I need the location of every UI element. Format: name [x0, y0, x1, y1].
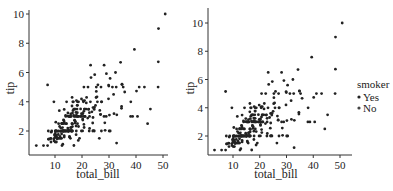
data-point — [249, 130, 252, 133]
data-point — [77, 139, 80, 142]
data-point — [62, 130, 65, 133]
data-point — [290, 118, 293, 121]
data-point — [107, 97, 110, 100]
data-point — [272, 110, 275, 113]
data-point — [292, 92, 295, 95]
data-point — [94, 104, 97, 107]
data-point — [95, 86, 98, 89]
data-point — [119, 61, 122, 64]
data-point — [267, 83, 270, 86]
data-point — [274, 90, 277, 93]
data-point — [250, 149, 253, 152]
data-point — [80, 98, 83, 101]
data-point — [224, 90, 227, 93]
data-point — [66, 130, 69, 133]
data-point — [73, 144, 76, 147]
data-point — [269, 122, 272, 125]
data-point — [285, 90, 288, 93]
data-point — [149, 108, 152, 111]
data-point — [278, 135, 281, 138]
data-point — [244, 132, 247, 135]
data-point — [103, 115, 106, 118]
data-point — [75, 133, 78, 136]
data-point — [240, 127, 243, 130]
data-point — [63, 108, 66, 111]
data-point — [83, 123, 86, 126]
data-point — [228, 136, 231, 139]
data-point — [266, 135, 269, 138]
data-point — [257, 113, 260, 116]
data-point — [123, 91, 126, 94]
data-point — [164, 13, 167, 16]
y-ticks-right: 246810 — [192, 17, 208, 142]
data-point — [271, 80, 274, 83]
data-point — [71, 112, 74, 115]
data-point — [298, 90, 301, 93]
data-point — [272, 102, 275, 105]
data-point — [274, 106, 277, 109]
data-point — [75, 130, 78, 133]
data-point — [297, 68, 300, 71]
data-point — [334, 92, 337, 95]
data-point — [232, 145, 235, 148]
data-point — [315, 92, 318, 95]
data-point — [88, 130, 91, 133]
data-point — [89, 64, 92, 67]
data-point — [133, 48, 136, 51]
x-tick-label: 40 — [131, 159, 143, 171]
data-point — [108, 114, 111, 117]
data-point — [293, 119, 296, 122]
data-point — [71, 96, 74, 99]
data-point — [91, 110, 94, 113]
data-points-right — [213, 22, 344, 152]
data-point — [103, 121, 106, 124]
data-point — [157, 60, 160, 63]
data-point — [246, 134, 249, 137]
data-point — [244, 135, 247, 138]
data-point — [301, 97, 304, 100]
data-point — [67, 112, 70, 115]
data-point — [66, 127, 69, 130]
data-point — [53, 100, 56, 103]
data-point — [89, 100, 92, 103]
data-point — [263, 102, 266, 105]
data-point — [224, 149, 227, 152]
data-point — [35, 144, 38, 147]
data-point — [63, 136, 66, 139]
data-point — [42, 144, 45, 147]
data-point — [241, 141, 244, 144]
data-point — [238, 137, 241, 140]
legend: smoker Yes No — [357, 78, 390, 114]
data-point — [246, 121, 249, 124]
data-point — [85, 96, 88, 99]
data-point — [281, 134, 284, 137]
data-point — [264, 122, 267, 125]
data-point — [111, 86, 114, 89]
data-point — [115, 142, 118, 145]
data-point — [289, 92, 292, 95]
data-point — [255, 106, 258, 109]
data-point — [264, 92, 267, 95]
data-point — [157, 86, 160, 89]
data-point — [129, 100, 132, 103]
data-point — [105, 72, 108, 75]
data-point — [265, 114, 268, 117]
data-point — [59, 127, 62, 130]
data-point — [258, 104, 261, 107]
data-point — [115, 86, 118, 89]
y-tick-label: 6 — [198, 74, 204, 86]
y-ticks-left: 246810 — [13, 8, 29, 137]
data-point — [63, 119, 66, 122]
data-point — [341, 22, 344, 25]
data-point — [135, 90, 138, 93]
data-point — [312, 96, 315, 99]
data-point — [58, 109, 61, 112]
data-point — [113, 112, 116, 115]
legend-entry-no[interactable]: No — [357, 102, 377, 114]
data-point — [310, 56, 313, 59]
data-point — [108, 130, 111, 133]
data-point — [254, 110, 257, 113]
data-point — [54, 141, 57, 144]
data-point — [62, 122, 65, 125]
y-tick-label: 2 — [19, 125, 25, 137]
